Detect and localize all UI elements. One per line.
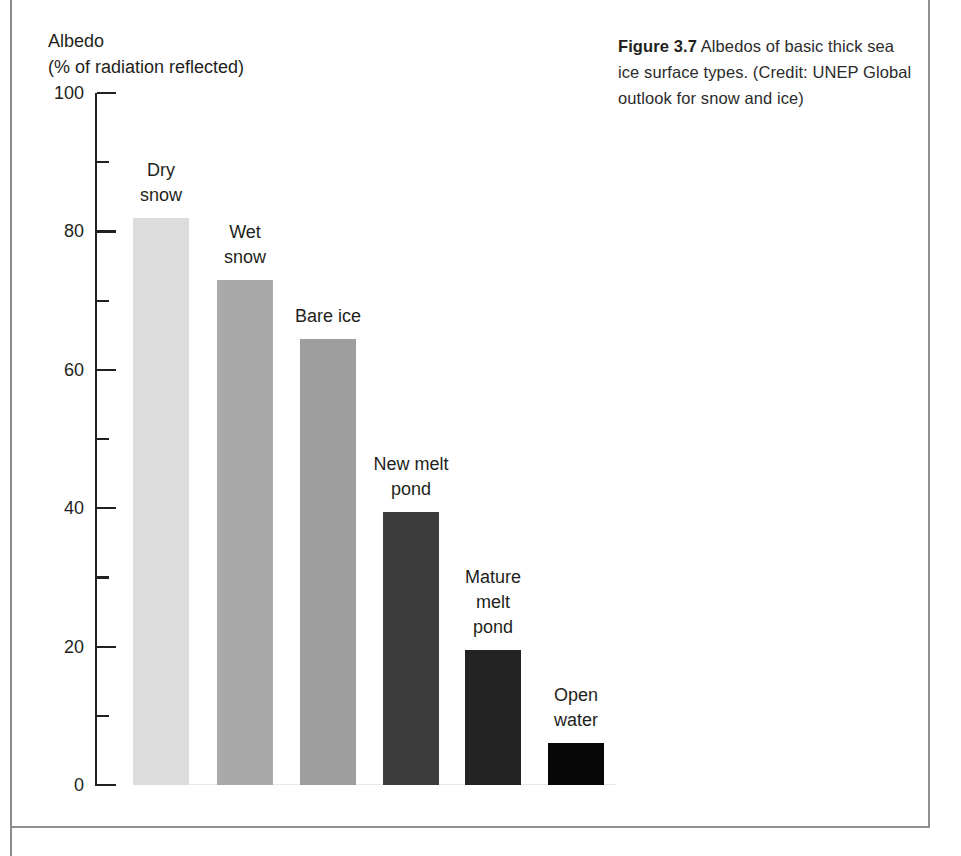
y-axis-major-tick [97, 507, 116, 509]
bar-mature-melt-pond[interactable] [465, 650, 521, 785]
bar-label-wet-snow: Wet snow [185, 220, 305, 270]
y-axis-tick-label: 60 [24, 361, 84, 379]
bar-label-mature-melt-pond: Mature melt pond [433, 565, 553, 640]
y-axis-major-tick [97, 92, 116, 94]
y-axis-major-tick [97, 230, 116, 232]
y-axis-minor-tick [97, 715, 109, 717]
bar-label-new-melt-pond: New melt pond [351, 452, 471, 502]
bar-chart-plot: 020406080100 Dry snowWet snowBare iceNew… [0, 0, 961, 856]
y-axis-minor-tick [97, 300, 109, 302]
bar-dry-snow[interactable] [133, 218, 189, 785]
y-axis-minor-tick [97, 576, 109, 578]
bar-new-melt-pond[interactable] [383, 512, 439, 785]
figure-page: Figure 3.7 Albedos of basic thick sea ic… [0, 0, 961, 856]
y-axis-tick-label: 100 [24, 84, 84, 102]
y-axis-minor-tick [97, 438, 109, 440]
y-axis-major-tick [97, 369, 116, 371]
y-axis-tick-label: 80 [24, 222, 84, 240]
bar-label-dry-snow: Dry snow [101, 158, 221, 208]
y-axis-tick-label: 0 [24, 776, 84, 794]
y-axis-major-tick [97, 784, 116, 786]
y-axis-major-tick [97, 646, 116, 648]
bar-wet-snow[interactable] [217, 280, 273, 785]
y-axis-tick-label: 40 [24, 499, 84, 517]
bar-label-bare-ice: Bare ice [268, 304, 388, 329]
y-axis-tick-label: 20 [24, 638, 84, 656]
bar-label-open-water: Open water [516, 683, 636, 733]
bar-bare-ice[interactable] [300, 339, 356, 785]
bar-open-water[interactable] [548, 743, 604, 785]
